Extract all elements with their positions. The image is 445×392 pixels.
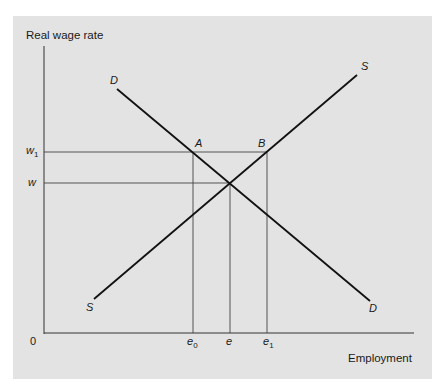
point-a-label: A [195,137,202,149]
demand-curve [117,89,370,301]
e-label: e [226,335,232,347]
labour-market-diagram [0,0,445,392]
x-axis-label: Employment [348,352,412,364]
demand-label-bottom: D [369,302,377,314]
supply-label-top: S [361,60,368,72]
point-b-label: B [258,137,265,149]
e0-label: e0 [187,335,198,350]
w1-label: w1 [26,144,38,159]
supply-curve [94,75,357,299]
supply-label-bottom: S [86,301,93,313]
demand-label-top: D [110,74,118,86]
w-label: w [28,176,36,188]
y-axis-label: Real wage rate [26,29,103,41]
origin-label: 0 [30,335,36,347]
e1-label: e1 [263,335,274,350]
